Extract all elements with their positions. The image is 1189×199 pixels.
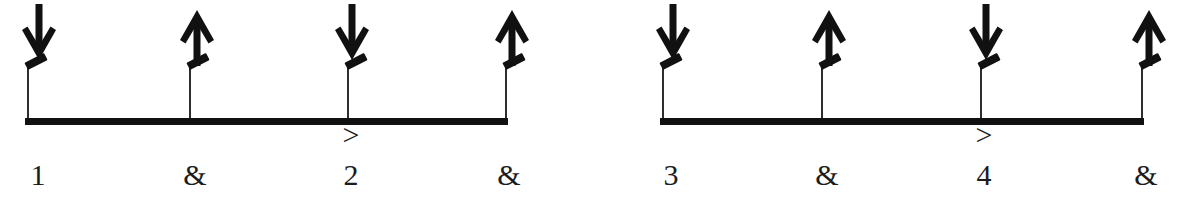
accent-mark: > <box>337 122 365 148</box>
down-stroke-arrow-icon <box>654 4 692 66</box>
down-stroke-arrow-icon <box>967 4 1005 66</box>
down-stroke-arrow-icon <box>20 4 58 66</box>
count-label: & <box>489 158 529 192</box>
rhythm-notation-sheet: 1&>2&3&>4& <box>0 0 1189 199</box>
up-stroke-arrow-icon <box>1130 4 1168 66</box>
count-label: 2 <box>331 158 371 192</box>
count-label: & <box>807 158 847 192</box>
note-stem <box>662 68 664 118</box>
note-stem <box>505 68 507 118</box>
down-stroke-arrow-icon <box>333 4 371 66</box>
note-stem <box>980 68 982 118</box>
up-stroke-arrow-icon <box>493 4 531 66</box>
up-stroke-arrow-icon <box>178 4 216 66</box>
note-stem <box>1141 68 1143 118</box>
accent-mark: > <box>970 122 998 148</box>
note-stem <box>27 68 29 118</box>
count-label: & <box>175 158 215 192</box>
count-label: 1 <box>18 158 58 192</box>
count-label: 4 <box>964 158 1004 192</box>
count-label: & <box>1126 158 1166 192</box>
note-beam <box>660 118 1144 125</box>
up-stroke-arrow-icon <box>810 4 848 66</box>
note-stem <box>347 68 349 118</box>
note-stem <box>821 68 823 118</box>
count-label: 3 <box>651 158 691 192</box>
note-stem <box>189 68 191 118</box>
note-beam <box>25 118 508 125</box>
